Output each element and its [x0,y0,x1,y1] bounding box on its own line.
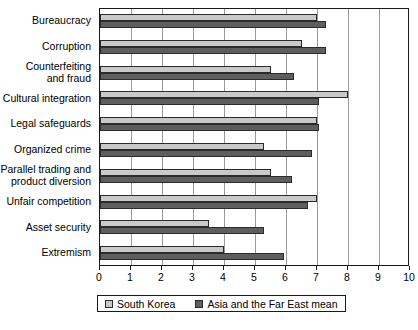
legend-item: South Korea [105,298,175,310]
x-axis-tick-mark [347,266,348,270]
y-axis-tick-label: Extremism [0,247,91,259]
y-axis-tick-label: Organized crime [0,144,91,156]
bar-row [100,86,408,112]
x-axis-tick-mark [192,266,193,270]
bar-south-korea [100,220,209,227]
bar-asia-far-east-mean [100,202,308,209]
bar-row [100,112,408,138]
x-axis-tick-mark [223,266,224,270]
bar-row [100,61,408,87]
bar-asia-far-east-mean [100,21,326,28]
legend-label: South Korea [117,298,175,310]
legend-label: Asia and the Far East mean [207,298,337,310]
x-axis-tick-mark [254,266,255,270]
x-axis-tick-label: 8 [335,271,359,283]
bar-row [100,164,408,190]
bar-south-korea [100,143,264,150]
bar-row [100,190,408,216]
y-axis-tick-label: Asset security [0,222,91,234]
x-axis-tick-label: 1 [118,271,142,283]
x-axis-tick-label: 2 [149,271,173,283]
x-axis: 012345678910 [99,266,410,272]
bar-south-korea [100,91,348,98]
x-axis-tick-mark [99,266,100,270]
x-axis-tick-mark [285,266,286,270]
y-axis-tick-label: Bureaucracy [0,15,91,27]
bar-row [100,138,408,164]
x-axis-tick-mark [378,266,379,270]
legend-swatch-icon [105,300,113,308]
x-axis-tick-mark [316,266,317,270]
legend-swatch-icon [195,300,203,308]
bar-south-korea [100,40,302,47]
legend-item: Asia and the Far East mean [195,298,337,310]
bar-asia-far-east-mean [100,47,326,54]
bar-south-korea [100,117,317,124]
x-axis-tick-label: 3 [180,271,204,283]
bar-row [100,9,408,35]
y-axis-tick-label: Cultural integration [0,93,91,105]
bar-row [100,241,408,267]
y-axis-tick-label: Legal safeguards [0,118,91,130]
x-axis-tick-label: 0 [87,271,111,283]
x-axis-tick-label: 5 [242,271,266,283]
bar-asia-far-east-mean [100,98,319,105]
y-axis-tick-label: Parallel trading and product diversion [0,164,91,187]
x-axis-tick-label: 4 [211,271,235,283]
bar-south-korea [100,246,224,253]
x-axis-tick-label: 9 [366,271,390,283]
y-axis-tick-label: Counterfeiting and fraud [0,61,91,84]
x-axis-tick-label: 10 [397,271,418,283]
bar-south-korea [100,14,317,21]
bar-chart: BureaucracyCorruptionCounterfeiting and … [0,0,418,330]
bar-row [100,215,408,241]
bar-asia-far-east-mean [100,176,292,183]
y-axis-tick-label: Corruption [0,41,91,53]
bar-rows [100,9,408,265]
bar-asia-far-east-mean [100,124,319,131]
x-axis-tick-label: 6 [273,271,297,283]
y-axis-tick-label: Unfair competition [0,196,91,208]
bar-south-korea [100,66,271,73]
x-axis-tick-mark [130,266,131,270]
bar-asia-far-east-mean [100,150,312,157]
bar-south-korea [100,169,271,176]
bar-asia-far-east-mean [100,227,264,234]
bar-row [100,35,408,61]
y-axis-labels: BureaucracyCorruptionCounterfeiting and … [0,8,95,266]
chart-legend: South KoreaAsia and the Far East mean [97,295,346,312]
bar-asia-far-east-mean [100,253,284,260]
x-axis-tick-label: 7 [304,271,328,283]
bar-asia-far-east-mean [100,73,294,80]
x-axis-tick-mark [161,266,162,270]
bar-south-korea [100,195,317,202]
x-axis-tick-mark [409,266,410,270]
plot-area [99,8,409,266]
